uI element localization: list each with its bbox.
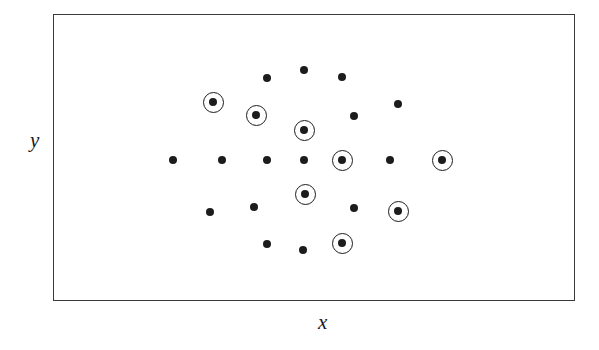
- x-axis-label: x: [318, 312, 327, 333]
- data-point: [386, 156, 394, 164]
- data-point: [350, 204, 358, 212]
- data-point: [350, 112, 358, 120]
- data-point-circled: [438, 156, 446, 164]
- data-point: [394, 100, 402, 108]
- plot-frame: [53, 14, 575, 301]
- data-point: [250, 203, 258, 211]
- data-point-circled: [300, 126, 308, 134]
- data-point-circled: [394, 207, 402, 215]
- data-point: [263, 74, 271, 82]
- data-point-circled: [301, 190, 309, 198]
- data-point: [300, 156, 308, 164]
- data-point: [263, 156, 271, 164]
- scatter-plot-figure: y x: [0, 0, 599, 350]
- data-point: [299, 246, 307, 254]
- data-point: [263, 240, 271, 248]
- data-point: [338, 73, 346, 81]
- data-point-circled: [209, 98, 217, 106]
- y-axis-label: y: [30, 130, 39, 151]
- data-point-circled: [252, 111, 260, 119]
- data-point: [206, 208, 214, 216]
- data-point-circled: [338, 239, 346, 247]
- data-point: [300, 66, 308, 74]
- data-point-circled: [338, 156, 346, 164]
- data-point: [218, 156, 226, 164]
- data-point: [169, 156, 177, 164]
